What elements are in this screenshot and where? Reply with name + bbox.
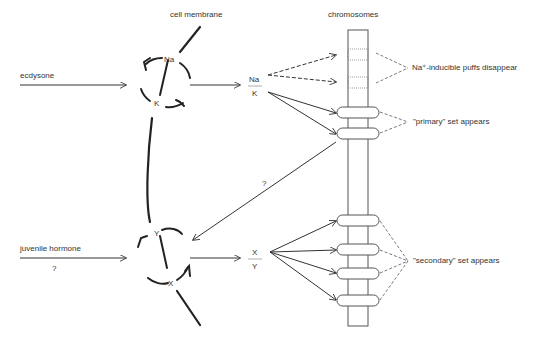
na-k-cycle bbox=[141, 58, 190, 107]
chromosome-body bbox=[348, 30, 368, 326]
y-x-cycle bbox=[138, 229, 190, 284]
k-label: K bbox=[154, 100, 159, 108]
ratio-bottom-numerator: X bbox=[252, 249, 257, 257]
jh-question-label: ? bbox=[52, 265, 56, 273]
diagram-canvas bbox=[0, 0, 540, 338]
ratio-top-denominator: K bbox=[252, 90, 257, 98]
feedback-question-label: ? bbox=[262, 180, 266, 188]
puffs-disappear-label: Na⁺-inducible puffs disappear bbox=[412, 64, 517, 72]
ratio-bottom-denominator: Y bbox=[252, 263, 257, 271]
ratio-top-numerator: Na bbox=[249, 76, 259, 84]
secondary-set-label: "secondary" set appears bbox=[413, 257, 500, 265]
juvenile-hormone-label: juvenile hormone bbox=[20, 245, 81, 253]
cell-membrane-label: cell membrane bbox=[170, 11, 222, 19]
na-label: Na bbox=[164, 56, 174, 64]
chromosomes-label: chromosomes bbox=[328, 11, 378, 19]
primary-set-label: "primary" set appears bbox=[413, 118, 489, 126]
y-label: Y bbox=[154, 230, 159, 238]
cell-membrane-curve bbox=[147, 27, 200, 325]
ecdysone-label: ecdysone bbox=[20, 72, 54, 80]
x-label: X bbox=[168, 280, 173, 288]
